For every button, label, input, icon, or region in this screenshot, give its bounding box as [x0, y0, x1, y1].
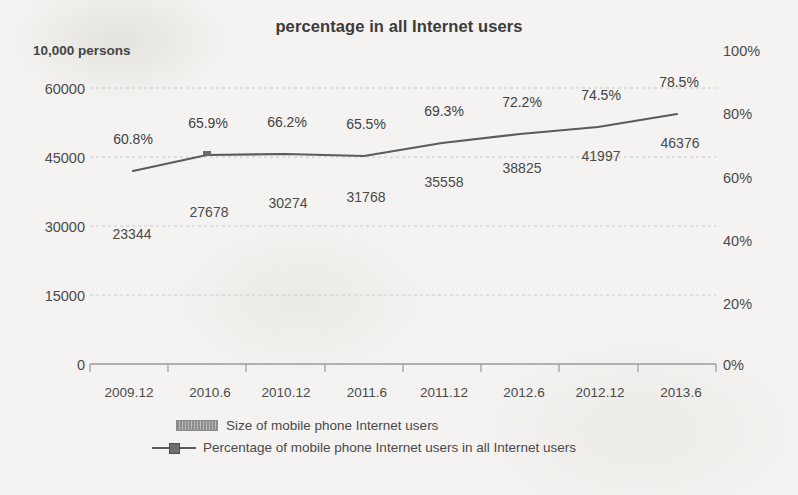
y-axis-left-tick-0: 0: [15, 357, 85, 373]
chart-legend: Size of mobile phone Internet users Perc…: [0, 418, 798, 462]
data-label-size-2010-12: 30274: [251, 195, 325, 211]
data-label-size-2012-12: 41997: [564, 148, 638, 164]
x-axis-label-2009-12: 2009.12: [89, 385, 169, 400]
y-axis-left-tick-30000: 30000: [15, 219, 85, 235]
data-label-size-2012-6: 38825: [485, 160, 559, 176]
y-axis-left-tick-60000: 60000: [15, 81, 85, 97]
data-label-pct-2010-6: 65.9%: [171, 115, 245, 131]
data-label-size-2009-12: 23344: [95, 226, 169, 242]
x-axis-ticks: [90, 364, 716, 372]
y-axis-right-tick-40: 40%: [723, 233, 783, 249]
x-axis-label-2012-6: 2012.6: [484, 385, 564, 400]
data-label-pct-2011-12: 69.3%: [407, 103, 481, 119]
y-axis-left-tick-15000: 15000: [15, 288, 85, 304]
legend-item-percentage[interactable]: Percentage of mobile phone Internet user…: [0, 440, 798, 455]
data-label-pct-2012-6: 72.2%: [485, 94, 559, 110]
x-axis-label-2011-6: 2011.6: [327, 385, 407, 400]
data-label-size-2011-6: 31768: [329, 189, 403, 205]
data-label-pct-2010-12: 66.2%: [250, 114, 324, 130]
bar-swatch-icon: [176, 420, 218, 431]
x-axis-label-2013-6: 2013.6: [641, 385, 721, 400]
legend-label-percentage: Percentage of mobile phone Internet user…: [203, 440, 576, 455]
data-label-pct-2012-12: 74.5%: [564, 87, 638, 103]
data-label-pct-2009-12: 60.8%: [96, 131, 170, 147]
x-axis-label-2011-12: 2011.12: [404, 385, 484, 400]
y-axis-right-tick-60: 60%: [723, 170, 783, 186]
x-axis-label-2010-6: 2010.6: [170, 385, 250, 400]
line-marker-icon: [203, 151, 211, 155]
data-label-pct-2011-6: 65.5%: [329, 116, 403, 132]
y-axis-right-tick-20: 20%: [723, 296, 783, 312]
legend-item-size[interactable]: Size of mobile phone Internet users: [0, 418, 798, 433]
y-axis-right-tick-0: 0%: [723, 357, 783, 373]
data-label-size-2011-12: 35558: [407, 174, 481, 190]
y-axis-left-tick-45000: 45000: [15, 150, 85, 166]
data-label-size-2010-6: 27678: [172, 204, 246, 220]
data-label-size-2013-6: 46376: [643, 135, 717, 151]
y-axis-right-tick-100: 100%: [723, 43, 783, 59]
line-marker-icon: [152, 442, 196, 453]
y-axis-right-tick-80: 80%: [723, 106, 783, 122]
data-label-pct-2013-6: 78.5%: [642, 74, 716, 90]
x-axis-label-2010-12: 2010.12: [246, 385, 326, 400]
legend-label-size: Size of mobile phone Internet users: [226, 418, 438, 433]
x-axis-label-2012-12: 2012.12: [560, 385, 640, 400]
